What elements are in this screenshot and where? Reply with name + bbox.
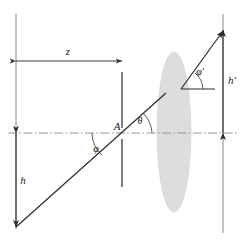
- label-h-prime: h′: [228, 74, 237, 86]
- diagram-canvas: z h h′ φ′ φ: [0, 0, 243, 244]
- label-z: z: [65, 45, 71, 57]
- label-phi: φ: [93, 143, 99, 154]
- thin-lens-ellipse: [157, 52, 191, 212]
- label-theta: θ: [138, 115, 143, 126]
- label-phi-prime: φ′: [196, 66, 205, 77]
- label-h: h: [20, 174, 26, 186]
- label-point-a: A: [113, 120, 121, 132]
- exit-ray: [181, 31, 223, 89]
- incident-ray: [16, 93, 166, 227]
- optics-ray-diagram: z h h′ φ′ φ: [0, 0, 243, 244]
- ray-angle-arc: [144, 114, 152, 133]
